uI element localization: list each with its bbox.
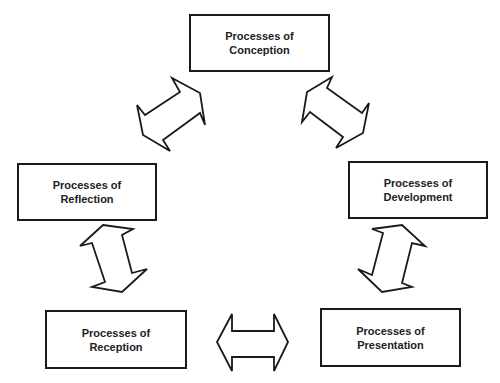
- node-reception-line1: Processes of: [82, 326, 150, 340]
- node-presentation-line2: Presentation: [357, 338, 424, 352]
- node-reflection-line1: Processes of: [53, 178, 121, 192]
- node-presentation: Processes of Presentation: [320, 308, 461, 367]
- node-development-line1: Processes of: [384, 176, 452, 190]
- node-reflection-line2: Reflection: [60, 192, 113, 206]
- double-arrow-reflection-reception: [80, 225, 147, 292]
- double-arrow-reflection-conception: [137, 78, 205, 151]
- node-reception: Processes of Reception: [45, 310, 187, 369]
- node-conception: Processes of Conception: [189, 14, 330, 72]
- node-conception-line2: Conception: [229, 43, 290, 57]
- node-development: Processes of Development: [348, 161, 488, 219]
- node-reflection: Processes of Reflection: [17, 163, 157, 221]
- double-arrow-development-presentation: [358, 225, 425, 292]
- node-development-line2: Development: [383, 190, 452, 204]
- double-arrow-conception-development: [302, 77, 369, 148]
- node-reception-line2: Reception: [89, 340, 142, 354]
- node-presentation-line1: Processes of: [356, 324, 424, 338]
- node-conception-line1: Processes of: [225, 29, 293, 43]
- double-arrow-reception-presentation: [217, 314, 288, 371]
